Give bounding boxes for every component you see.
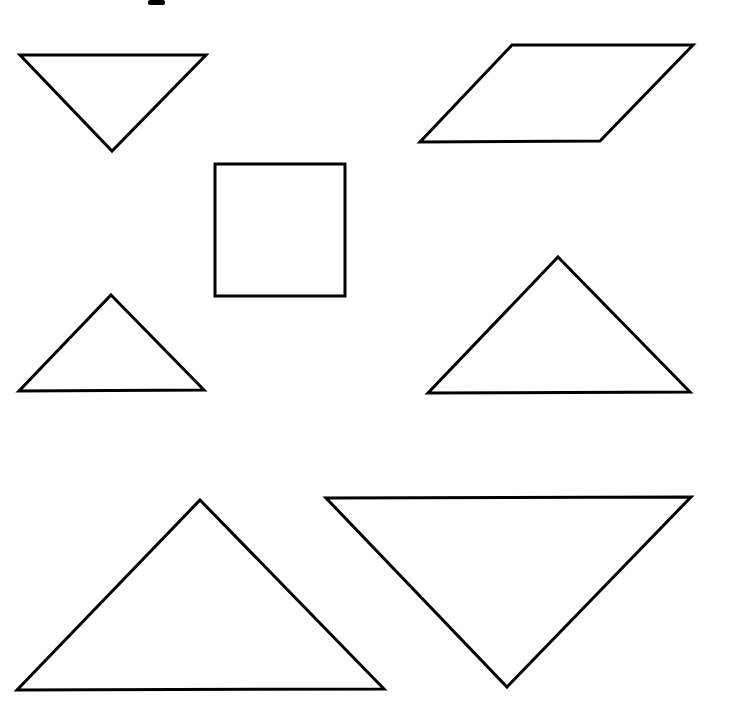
medium-triangle-middle-right (428, 257, 690, 393)
small-triangle-top-left (20, 55, 206, 151)
square-center (215, 164, 345, 296)
parallelogram-top-right (420, 45, 693, 142)
tangram-diagram (0, 0, 729, 723)
cut-off-text-fragment (148, 0, 165, 5)
large-triangle-bottom-left (17, 500, 384, 690)
small-triangle-middle-left (19, 295, 204, 391)
large-triangle-bottom-right (326, 497, 691, 687)
